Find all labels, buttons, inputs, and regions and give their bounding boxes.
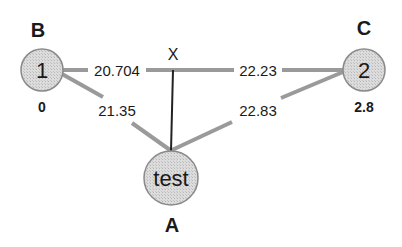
edge-label-x-2: 22.23 [239,62,277,79]
edge-label-1-x: 20.704 [94,62,140,79]
node-1[interactable]: 1 [21,49,63,91]
edge-label-2-test: 22.83 [239,102,277,119]
node-2[interactable]: 2 [343,49,385,91]
edge-x-test [171,70,173,151]
node-test[interactable]: test [144,151,198,205]
node-2-value: 2.8 [354,99,374,115]
node-2-text: 2 [358,58,370,83]
network-diagram: 20.704 22.23 21.35 22.83 X 1 B 0 2 C 2.8… [0,0,402,247]
node-test-letter: A [165,214,179,236]
node-2-letter: C [357,17,371,39]
node-1-text: 1 [36,58,48,83]
node-1-letter: B [31,19,45,41]
node-test-text: test [153,166,188,191]
edge-label-1-test: 21.35 [98,102,136,119]
node-1-value: 0 [38,99,46,115]
junction-label-x: X [168,46,179,63]
